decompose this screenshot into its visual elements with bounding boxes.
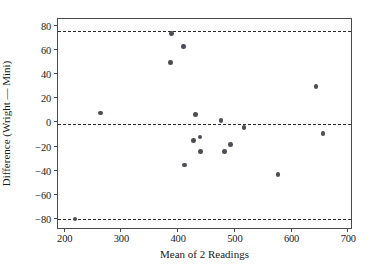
data-point — [181, 44, 186, 49]
y-tick-label: −40 — [35, 165, 51, 176]
data-point — [169, 31, 174, 36]
data-point — [168, 60, 173, 65]
x-tick-label: 600 — [284, 233, 299, 244]
x-tick-label: 400 — [171, 233, 186, 244]
y-tick: 20 — [54, 97, 58, 98]
plot-area: 806040200−20−40−60−80 200300400500600700 — [57, 18, 352, 229]
y-tick-label: 20 — [41, 93, 51, 104]
y-tick: −60 — [54, 194, 58, 195]
x-tick-label: 500 — [227, 233, 242, 244]
data-point — [98, 111, 103, 116]
y-tick-label: −80 — [35, 213, 51, 224]
x-tick: 600 — [291, 228, 292, 232]
y-tick-label: 80 — [41, 21, 51, 32]
x-tick: 500 — [234, 228, 235, 232]
data-point — [276, 172, 281, 177]
y-tick: −40 — [54, 170, 58, 171]
data-point — [73, 217, 78, 222]
data-point — [321, 131, 326, 136]
x-tick-label: 700 — [341, 233, 356, 244]
data-point — [219, 118, 224, 123]
y-tick-label: 40 — [41, 69, 51, 80]
y-tick: 60 — [54, 49, 58, 50]
data-point — [314, 84, 319, 89]
y-tick-label: 60 — [41, 45, 51, 56]
y-tick: −80 — [54, 218, 58, 219]
data-point — [222, 149, 227, 154]
x-tick-label: 200 — [57, 233, 72, 244]
y-tick-label: 0 — [46, 117, 51, 128]
x-tick-label: 300 — [114, 233, 129, 244]
y-tick-label: −20 — [35, 141, 51, 152]
y-tick: 40 — [54, 73, 58, 74]
data-point — [193, 112, 198, 117]
data-point — [191, 138, 196, 143]
x-tick: 200 — [64, 228, 65, 232]
data-points-layer — [58, 19, 351, 228]
x-tick: 300 — [120, 228, 121, 232]
y-tick: 80 — [54, 25, 58, 26]
data-point — [198, 149, 203, 154]
y-tick-label: −60 — [35, 189, 51, 200]
data-point — [182, 163, 187, 168]
x-tick: 700 — [347, 228, 348, 232]
data-point — [198, 135, 203, 140]
y-tick: −20 — [54, 146, 58, 147]
x-axis-title: Mean of 2 Readings — [57, 248, 352, 260]
x-tick: 400 — [177, 228, 178, 232]
data-point — [228, 142, 233, 147]
y-tick: 0 — [54, 121, 58, 122]
data-point — [242, 125, 247, 130]
bland-altman-scatter-figure: 806040200−20−40−60−80 200300400500600700… — [0, 0, 369, 270]
y-axis-title: Difference (Wright — Mini) — [0, 18, 16, 229]
